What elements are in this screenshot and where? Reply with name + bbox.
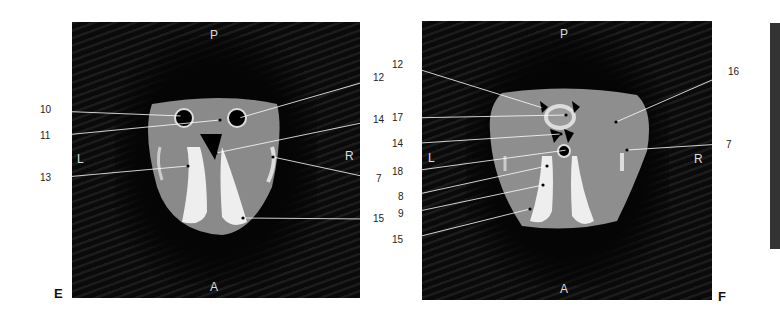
orientation-top: P [560, 27, 568, 41]
ct-panel-e: P A L R [72, 22, 360, 298]
label-15: 15 [392, 234, 403, 245]
label-17: 17 [392, 112, 403, 123]
label-7: 7 [726, 139, 732, 150]
label-14: 14 [373, 114, 384, 125]
orientation-top: P [210, 28, 218, 42]
orientation-right: R [345, 149, 354, 163]
label-9: 9 [398, 208, 404, 219]
label-16: 16 [728, 66, 739, 77]
orientation-bottom: A [210, 280, 218, 294]
label-11: 11 [40, 130, 50, 141]
orientation-right: R [694, 152, 703, 166]
ct-cross-section-f [422, 21, 712, 300]
label-18: 18 [392, 166, 403, 177]
panel-letter-e: E [54, 286, 63, 301]
panel-letter-f: F [718, 289, 726, 304]
label-12: 12 [373, 72, 384, 83]
ct-panel-f: P A L R [422, 21, 712, 300]
label-10: 10 [40, 104, 51, 115]
orientation-left: L [428, 151, 435, 165]
orientation-bottom: A [560, 282, 568, 296]
label-14: 14 [392, 138, 403, 149]
label-15: 15 [373, 213, 384, 224]
label-13: 13 [40, 172, 51, 183]
adjacent-panel-edge [770, 23, 780, 249]
orientation-left: L [77, 152, 84, 166]
label-12: 12 [392, 59, 403, 70]
label-7: 7 [376, 173, 382, 184]
ct-cross-section-e [72, 22, 360, 298]
label-8: 8 [398, 191, 404, 202]
